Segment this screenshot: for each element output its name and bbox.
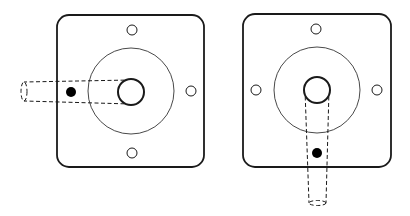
shaft-circle bbox=[118, 79, 144, 105]
mounting-hole bbox=[186, 86, 196, 96]
right-plate-assembly bbox=[243, 14, 391, 206]
mounting-hole bbox=[127, 25, 137, 35]
crank-arm-edge bbox=[305, 90, 309, 203]
mounting-hole bbox=[127, 148, 137, 158]
left-plate-assembly bbox=[21, 15, 204, 167]
crank-arm-edge bbox=[326, 90, 329, 203]
mounting-hole bbox=[311, 24, 321, 34]
crank-arm-end bbox=[21, 82, 27, 101]
crank-pin-dot bbox=[66, 87, 76, 97]
crank-arm-edge bbox=[24, 80, 131, 82]
crank-arm-edge bbox=[24, 101, 131, 104]
shaft-circle bbox=[304, 77, 330, 103]
mounting-hole bbox=[251, 85, 261, 95]
crank-arm-end bbox=[309, 201, 326, 206]
crank-pin-dot bbox=[312, 148, 322, 158]
diagram-canvas bbox=[0, 0, 410, 216]
mounting-hole bbox=[372, 85, 382, 95]
